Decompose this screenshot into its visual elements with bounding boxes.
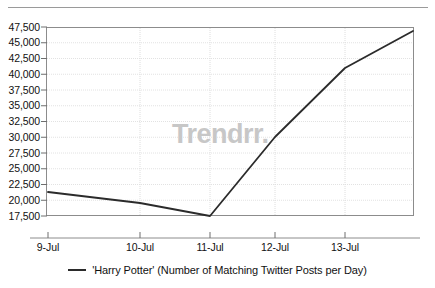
y-tick-label: 25,000 xyxy=(0,163,40,174)
y-tick-label: 47,500 xyxy=(0,22,40,33)
y-tick-label: 35,000 xyxy=(0,100,40,111)
trendrr-watermark: Trendrr. xyxy=(172,119,269,150)
y-tick-5: 35,000 xyxy=(0,100,40,111)
legend-label: 'Harry Potter' (Number of Matching Twitt… xyxy=(92,264,367,276)
y-tick-11: 20,000 xyxy=(0,195,40,206)
y-tick-label: 30,000 xyxy=(0,132,40,143)
y-tick-label: 17,500 xyxy=(0,211,40,222)
y-tick-8: 27,500 xyxy=(0,148,40,159)
y-tick-label: 32,500 xyxy=(0,116,40,127)
y-tick-label: 42,500 xyxy=(0,53,40,64)
y-tick-9: 25,000 xyxy=(0,163,40,174)
y-tick-label: 22,500 xyxy=(0,179,40,190)
y-tick-6: 32,500 xyxy=(0,116,40,127)
chart-page: Trendrr. 47,500 45,000 42,500 40,000 37,… xyxy=(0,0,435,288)
y-axis-tick-marks xyxy=(41,27,47,216)
chart-legend: 'Harry Potter' (Number of Matching Twitt… xyxy=(0,264,435,276)
x-tick-label-9-jul: 9-Jul xyxy=(37,241,59,253)
y-tick-label: 40,000 xyxy=(0,69,40,80)
y-tick-label: 37,500 xyxy=(0,85,40,96)
y-tick-2: 42,500 xyxy=(0,53,40,64)
y-tick-10: 22,500 xyxy=(0,179,40,190)
y-tick-label: 20,000 xyxy=(0,195,40,206)
x-axis-line-and-ticks xyxy=(30,232,420,238)
y-tick-3: 40,000 xyxy=(0,69,40,80)
y-tick-1: 45,000 xyxy=(0,37,40,48)
y-tick-4: 37,500 xyxy=(0,85,40,96)
legend-line-swatch-icon xyxy=(68,269,86,271)
y-tick-12: 17,500 xyxy=(0,211,40,222)
x-tick-label-12-jul: 12-Jul xyxy=(261,241,289,253)
y-tick-0: 47,500 xyxy=(0,22,40,33)
x-tick-label-13-jul: 13-Jul xyxy=(331,241,359,253)
y-tick-7: 30,000 xyxy=(0,132,40,143)
x-tick-label-10-jul: 10-Jul xyxy=(126,241,154,253)
y-tick-label: 27,500 xyxy=(0,148,40,159)
x-tick-label-11-jul: 11-Jul xyxy=(196,241,223,253)
y-tick-label: 45,000 xyxy=(0,37,40,48)
